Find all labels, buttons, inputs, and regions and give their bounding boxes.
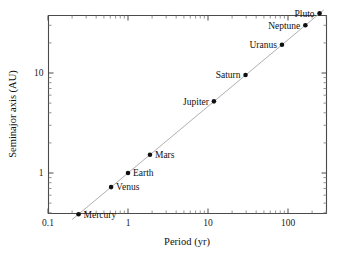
log-log-scatter-plot: MercuryVenusEarthMarsJupiterSaturnUranus… <box>0 0 346 256</box>
point-label-mars: Mars <box>155 150 175 160</box>
y-axis-ticks <box>49 25 327 213</box>
y-tick-label-10: 10 <box>34 68 44 78</box>
point-label-saturn: Saturn <box>216 70 241 80</box>
data-point-mercury <box>76 212 81 217</box>
data-point-pluto <box>317 11 322 16</box>
x-tick-label-1: 1 <box>126 218 131 228</box>
y-tick-labels: 110 <box>34 68 44 178</box>
point-label-uranus: Uranus <box>249 40 277 50</box>
x-tick-label-10: 10 <box>203 218 213 228</box>
x-axis-ticks <box>48 16 326 214</box>
data-point-uranus <box>280 42 285 47</box>
data-point-mars <box>148 152 153 157</box>
x-tick-labels: 0.1110100 <box>42 218 295 228</box>
plot-frame <box>49 16 327 214</box>
chart-figure: MercuryVenusEarthMarsJupiterSaturnUranus… <box>0 0 346 256</box>
point-label-earth: Earth <box>133 168 154 178</box>
x-tick-label-100: 100 <box>281 218 296 228</box>
point-label-jupiter: Jupiter <box>183 97 210 107</box>
data-point-neptune <box>303 23 308 28</box>
y-tick-label-1: 1 <box>39 168 44 178</box>
point-label-pluto: Pluto <box>295 9 315 19</box>
x-axis-title: Period (yr) <box>164 236 210 248</box>
data-point-jupiter <box>212 99 217 104</box>
point-label-neptune: Neptune <box>268 21 300 31</box>
point-label-mercury: Mercury <box>84 210 117 220</box>
data-point-earth <box>126 171 131 176</box>
y-axis-title: Seminajor axis (AU) <box>7 70 19 158</box>
data-point-saturn <box>243 73 248 78</box>
data-point-venus <box>109 185 114 190</box>
point-label-venus: Venus <box>116 182 140 192</box>
x-tick-label-0.1: 0.1 <box>42 218 54 228</box>
